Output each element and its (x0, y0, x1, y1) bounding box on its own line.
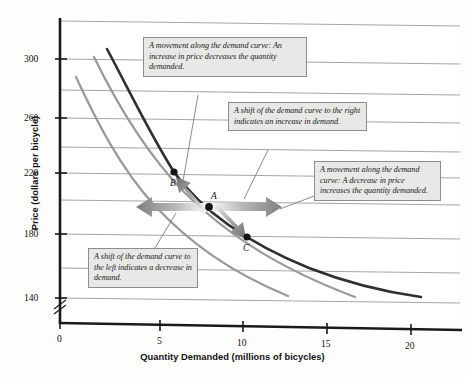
y-axis-title: Price (dollars per bicycle) (30, 68, 40, 278)
x-tick-label-5: 5 (157, 335, 162, 346)
x-tick-label-0: 0 (57, 333, 62, 344)
x-tick-label-15: 15 (321, 338, 331, 349)
point-label-c: C (243, 243, 249, 253)
x-axis-title: Quantity Demanded (millions of bicycles) (0, 352, 465, 362)
data-point-b[interactable] (170, 168, 177, 175)
callout-movement-increase-price: A movement along the demand curve: An in… (143, 37, 307, 77)
callout-movement-decrease-price: A movement along the demand curve: A dec… (314, 161, 441, 201)
demand-curve-figure: 300 260 220 180 140 0 5 10 15 20 B A C A… (0, 0, 465, 377)
point-label-b: B (170, 178, 176, 188)
point-label-a: A (211, 191, 217, 201)
data-point-c[interactable] (243, 233, 250, 240)
x-tick-label-10: 10 (237, 337, 247, 348)
callout-shift-right: A shift of the demand curve to the right… (228, 102, 367, 131)
callout-shift-left: A shift of the demand curve to the left … (88, 248, 198, 288)
x-axis-line (59, 323, 462, 330)
y-tick-label-300: 300 (24, 53, 38, 64)
y-tick-label-140: 140 (24, 292, 38, 303)
x-tick-label-20: 20 (405, 340, 415, 351)
data-point-a[interactable] (205, 203, 213, 211)
